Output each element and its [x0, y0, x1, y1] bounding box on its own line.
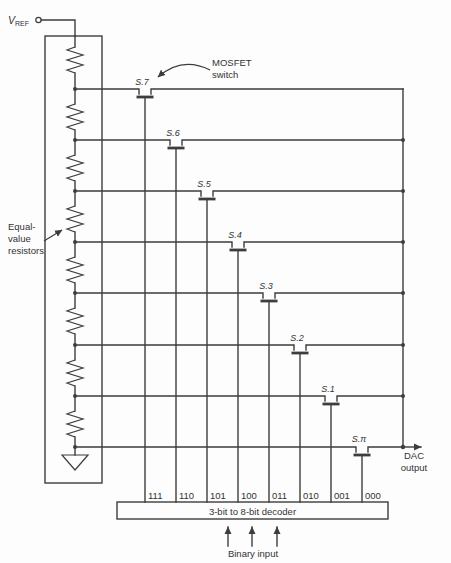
- mosfet-callout-label: switch: [212, 69, 238, 80]
- mosfet-switch-callout: MOSFET switch: [158, 57, 252, 80]
- dac-circuit-figure: VREF S.7 111 S.6 110: [0, 0, 451, 563]
- tap-wire: [75, 89, 403, 94]
- resistor-ladder: [62, 36, 88, 470]
- binary-input-label: Binary input: [228, 548, 279, 559]
- input-code-label: 101: [210, 490, 226, 501]
- node-dot: [73, 189, 77, 193]
- switch-label: S.2: [290, 333, 304, 343]
- resistor-symbol: [67, 206, 83, 232]
- equal-resistors-label: Equal-: [8, 221, 35, 232]
- tap-wire: [75, 345, 403, 350]
- tap-wire: [75, 140, 403, 145]
- dac-output-label: DAC: [404, 450, 424, 461]
- switch-label: S.4: [228, 230, 242, 240]
- node-dot: [401, 291, 405, 295]
- input-code-label: 001: [334, 490, 350, 501]
- vref-wire: [41, 20, 75, 36]
- callout-arrow: [158, 64, 210, 77]
- resistor-symbol: [67, 360, 83, 386]
- input-code-label: 011: [272, 490, 287, 501]
- resistor-symbol: [67, 411, 83, 437]
- equal-resistors-label: resistors: [8, 245, 44, 256]
- input-code-label: 010: [303, 490, 319, 501]
- equal-resistors-label: value: [8, 233, 31, 244]
- output-bus: DAC output: [401, 89, 428, 473]
- node-dot: [73, 240, 77, 244]
- node-dot: [73, 291, 77, 295]
- equal-resistors-callout: Equal- value resistors: [8, 221, 62, 256]
- input-code-label: 110: [179, 490, 194, 501]
- mosfet-switch-s4: S.4 100: [73, 230, 403, 502]
- callout-arrow: [44, 230, 62, 241]
- node-dot: [401, 138, 405, 142]
- resistor-symbol: [67, 308, 83, 334]
- node-dot: [73, 138, 77, 142]
- node-dot: [73, 394, 77, 398]
- decoder: 3-bit to 8-bit decoder Binary input: [117, 502, 388, 559]
- node-dot: [401, 240, 405, 244]
- node-dot: [401, 394, 405, 398]
- tap-wire: [75, 396, 403, 401]
- tap-wire: [75, 191, 403, 196]
- switch-label: S.3: [259, 281, 273, 291]
- resistor-symbol: [67, 155, 83, 181]
- input-code-label: 100: [241, 490, 257, 501]
- terminal-circle-icon: [36, 17, 41, 22]
- node-dot: [401, 343, 405, 347]
- switch-label: S.1: [321, 384, 335, 394]
- node-dot: [73, 445, 77, 449]
- tap-wire: [75, 447, 403, 452]
- dac-output-label: output: [401, 462, 428, 473]
- switch-label: S.6: [166, 128, 180, 138]
- resistor-symbol: [67, 47, 83, 73]
- switch-label: S.7: [135, 77, 150, 87]
- tap-wire: [75, 293, 403, 298]
- node-dot: [401, 189, 405, 193]
- switch-label: S.5: [197, 179, 212, 189]
- circuit-diagram: VREF S.7 111 S.6 110: [0, 0, 451, 563]
- node-dot: [73, 343, 77, 347]
- vref-label: VREF: [8, 14, 29, 27]
- input-code-label: 111: [148, 490, 162, 501]
- ground-icon: [62, 455, 88, 470]
- switch-label: S.π: [352, 434, 368, 444]
- decoder-label: 3-bit to 8-bit decoder: [209, 506, 296, 517]
- resistor-symbol: [67, 104, 83, 130]
- mosfet-callout-label: MOSFET: [212, 57, 252, 68]
- input-code-label: 000: [365, 490, 381, 501]
- node-dot: [73, 87, 77, 91]
- vref-terminal: VREF: [8, 14, 75, 36]
- resistor-symbol: [67, 257, 83, 283]
- tap-wire: [75, 242, 403, 247]
